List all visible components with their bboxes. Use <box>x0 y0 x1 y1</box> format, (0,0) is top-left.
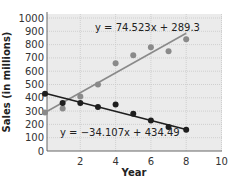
data-point <box>183 36 189 42</box>
data-point <box>95 104 101 110</box>
data-point <box>42 109 48 115</box>
x-tick-label: 6 <box>148 156 154 167</box>
y-tick-label: 800 <box>25 39 44 50</box>
y-tick-label: 500 <box>25 79 44 90</box>
y-tick-label: 900 <box>25 26 44 37</box>
y-axis-label: Sales (in millions) <box>1 32 12 133</box>
y-tick-label: 200 <box>25 119 44 130</box>
x-tick-label: 4 <box>112 156 118 167</box>
trendline-label-increasing: y = 74.523x + 289.3 <box>95 22 200 33</box>
x-tick-label: 8 <box>183 156 189 167</box>
data-point <box>60 100 66 106</box>
data-point <box>113 60 119 66</box>
data-point <box>166 48 172 54</box>
x-axis-label: Year <box>121 167 147 178</box>
scatter-chart: 01002003004005006007008009001000 246810 … <box>0 0 236 182</box>
data-point <box>60 105 66 111</box>
y-tick-label: 700 <box>25 52 44 63</box>
data-point <box>95 82 101 88</box>
x-tick-label: 2 <box>77 156 83 167</box>
data-point <box>130 52 136 58</box>
x-tick-label: 10 <box>215 156 228 167</box>
data-point <box>42 91 48 97</box>
data-point <box>183 127 189 133</box>
y-tick-label: 600 <box>25 66 44 77</box>
data-point <box>77 100 83 106</box>
data-point <box>148 44 154 50</box>
data-point <box>113 101 119 107</box>
data-point <box>130 111 136 117</box>
trendline-label-decreasing: y = −34.107x + 434.49 <box>60 127 180 138</box>
y-tick-label: 100 <box>25 132 44 143</box>
y-tick-label: 400 <box>25 92 44 103</box>
data-point <box>148 117 154 123</box>
y-tick-label: 1000 <box>19 13 44 24</box>
x-axis-ticks: 246810 <box>77 156 228 167</box>
y-axis-ticks: 01002003004005006007008009001000 <box>19 13 44 157</box>
y-tick-label: 300 <box>25 106 44 117</box>
data-point <box>77 93 83 99</box>
y-tick-label: 0 <box>38 146 44 157</box>
